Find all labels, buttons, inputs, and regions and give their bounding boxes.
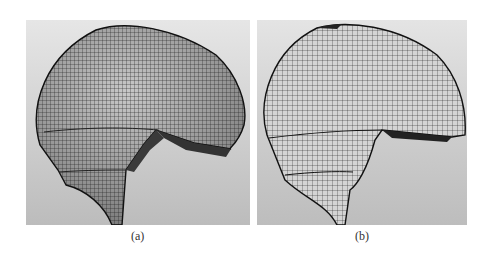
panel-a-mesh-render bbox=[26, 20, 250, 225]
panel-b-mesh-wireframe bbox=[257, 20, 467, 225]
caption-b: (b) bbox=[355, 229, 369, 244]
caption-a: (a) bbox=[131, 229, 144, 244]
helmet-mesh-wireframe bbox=[257, 20, 467, 225]
helmet-mesh-shaded bbox=[26, 20, 250, 225]
